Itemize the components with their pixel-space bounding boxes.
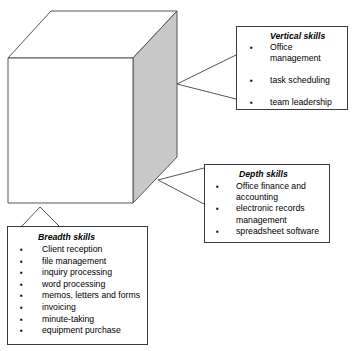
list-item: ▪ electronic records management xyxy=(209,203,326,225)
cube-front-face xyxy=(8,58,133,203)
list-item-label: Office management xyxy=(270,42,344,64)
bullet-icon: ▪ xyxy=(242,75,270,86)
list-item-label: spreadsheet software xyxy=(236,226,326,237)
callout-vertical-list: ▪ Office management ▪ task scheduling ▪ … xyxy=(242,42,344,108)
leader-line-breadth xyxy=(22,207,59,226)
list-item: ▪ spreadsheet software xyxy=(209,226,326,237)
bullet-icon: ▪ xyxy=(12,279,42,291)
callout-breadth-list: ▪ Client reception ▪ file management ▪ i… xyxy=(12,244,144,337)
list-item: ▪ Client reception xyxy=(12,244,144,256)
diagram-canvas: Vertical skills ▪ Office management ▪ ta… xyxy=(0,0,355,351)
list-item-label: electronic records management xyxy=(236,203,326,225)
leader-line-vertical xyxy=(177,55,236,99)
list-item-label: file management xyxy=(42,256,144,268)
bullet-icon: ▪ xyxy=(12,325,42,337)
bullet-icon: ▪ xyxy=(12,267,42,279)
list-item: ▪ minute-taking xyxy=(12,314,144,326)
list-item: ▪ equipment purchase xyxy=(12,325,144,337)
list-item: ▪ team leadership xyxy=(242,97,344,108)
leader-line-depth xyxy=(158,168,204,204)
bullet-icon: ▪ xyxy=(209,181,236,192)
list-item-label: equipment purchase xyxy=(42,325,144,337)
bullet-icon: ▪ xyxy=(209,203,236,214)
bullet-icon: ▪ xyxy=(12,314,42,326)
list-item: ▪ word processing xyxy=(12,279,144,291)
list-item-label: minute-taking xyxy=(42,314,144,326)
bullet-icon: ▪ xyxy=(12,256,42,268)
list-item: ▪ inquiry processing xyxy=(12,267,144,279)
bullet-icon: ▪ xyxy=(12,290,42,302)
bullet-icon: ▪ xyxy=(209,226,236,237)
list-item-label: task scheduling xyxy=(270,75,344,86)
list-item: ▪ memos, letters and forms xyxy=(12,290,144,302)
list-item: ▪ Office management xyxy=(242,42,344,64)
list-item-label: Client reception xyxy=(42,244,144,256)
callout-depth-title: Depth skills xyxy=(239,169,326,180)
list-item-label: memos, letters and forms xyxy=(42,290,144,302)
list-item: ▪ Office finance and accounting xyxy=(209,181,326,203)
bullet-icon: ▪ xyxy=(12,244,42,256)
callout-depth-skills: Depth skills ▪ Office finance and accoun… xyxy=(204,164,330,243)
list-item-label: inquiry processing xyxy=(42,267,144,279)
list-item: ▪ file management xyxy=(12,256,144,268)
list-item-label: team leadership xyxy=(270,97,344,108)
list-item-label: Office finance and accounting xyxy=(236,181,326,203)
callout-vertical-skills: Vertical skills ▪ Office management ▪ ta… xyxy=(236,26,348,110)
list-item-label: invoicing xyxy=(42,302,144,314)
list-item: ▪ invoicing xyxy=(12,302,144,314)
list-item: ▪ task scheduling xyxy=(242,75,344,86)
list-item-label: word processing xyxy=(42,279,144,291)
callout-breadth-title: Breadth skills xyxy=(38,232,144,243)
callout-depth-list: ▪ Office finance and accounting ▪ electr… xyxy=(209,181,326,237)
bullet-icon: ▪ xyxy=(12,302,42,314)
callout-vertical-title: Vertical skills xyxy=(270,31,344,42)
bullet-icon: ▪ xyxy=(242,97,270,108)
bullet-icon: ▪ xyxy=(242,42,270,53)
callout-breadth-skills: Breadth skills ▪ Client reception ▪ file… xyxy=(7,226,148,345)
